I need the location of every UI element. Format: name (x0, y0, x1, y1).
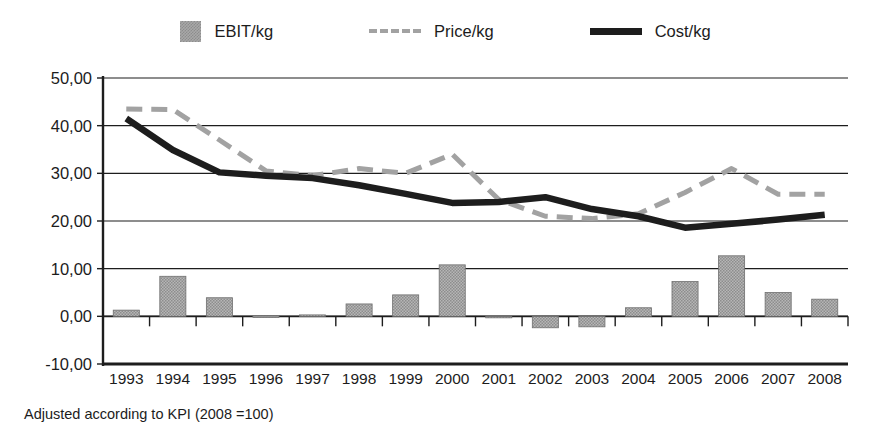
legend-item-cost: Cost/kg (590, 22, 711, 41)
x-tick-label-2007: 2007 (761, 370, 795, 388)
y-axis-tick-labels: 50,0040,0030,0020,0010,000,00-10,00 (20, 48, 92, 398)
x-tick-label-1999: 1999 (388, 370, 422, 388)
dashed-line-swatch-icon (369, 29, 421, 33)
bar-1996 (253, 316, 279, 318)
x-tick-label-1996: 1996 (249, 370, 283, 388)
x-tick-label-2004: 2004 (621, 370, 655, 388)
legend-label-price: Price/kg (434, 22, 494, 41)
y-tick-label: 40,00 (20, 116, 92, 135)
bar-swatch-icon (180, 21, 201, 42)
bar-2004 (625, 308, 651, 317)
chart-canvas (0, 48, 891, 398)
bar-2008 (812, 299, 838, 316)
bar-2003 (579, 316, 605, 326)
bar-1997 (299, 315, 325, 317)
legend-item-price: Price/kg (369, 22, 494, 41)
y-tick-label: 10,00 (20, 259, 92, 278)
y-tick-label: 30,00 (20, 164, 92, 183)
bar-1995 (206, 298, 232, 317)
bar-1998 (346, 304, 372, 316)
legend-label-cost: Cost/kg (655, 22, 711, 41)
bar-2001 (486, 316, 512, 318)
bar-1994 (160, 276, 186, 316)
x-tick-label-1998: 1998 (342, 370, 376, 388)
x-tick-label-1993: 1993 (109, 370, 143, 388)
solid-line-swatch-icon (590, 28, 642, 35)
legend-item-ebit: EBIT/kg (180, 21, 273, 42)
bar-1993 (113, 310, 139, 316)
x-tick-label-2003: 2003 (575, 370, 609, 388)
x-tick-label-1997: 1997 (295, 370, 329, 388)
x-tick-label-2005: 2005 (668, 370, 702, 388)
legend-label-ebit: EBIT/kg (214, 22, 273, 41)
chart-footnote: Adjusted according to KPI (2008 =100) (24, 406, 273, 422)
y-tick-label: 50,00 (20, 69, 92, 88)
x-axis-tick-labels: 1993199419951996199719981999200020012002… (0, 348, 891, 378)
x-tick-label-2001: 2001 (482, 370, 516, 388)
chart-legend: EBIT/kg Price/kg Cost/kg (0, 14, 891, 48)
x-tick-label-2008: 2008 (807, 370, 841, 388)
bar-2007 (765, 293, 791, 317)
bar-2002 (532, 316, 558, 327)
bar-2000 (439, 265, 465, 316)
x-tick-label-2006: 2006 (714, 370, 748, 388)
y-tick-label: 20,00 (20, 212, 92, 231)
x-tick-label-1994: 1994 (156, 370, 190, 388)
x-tick-label-1995: 1995 (202, 370, 236, 388)
x-tick-label-2000: 2000 (435, 370, 469, 388)
bar-2005 (672, 282, 698, 317)
chart-plot-area: 50,0040,0030,0020,0010,000,00-10,00 1993… (0, 48, 891, 398)
x-tick-label-2002: 2002 (528, 370, 562, 388)
bar-1999 (393, 295, 419, 316)
bar-2006 (719, 256, 745, 317)
y-tick-label: 0,00 (20, 307, 92, 326)
